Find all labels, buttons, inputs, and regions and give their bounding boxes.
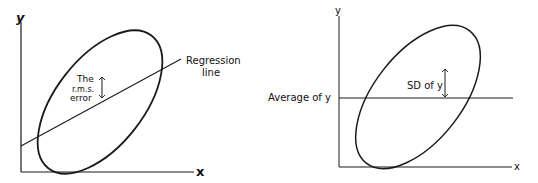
rms-label-1: The xyxy=(76,74,94,84)
right-panel: y x Average of y SD of y xyxy=(268,4,520,183)
left-scatter-ellipse xyxy=(14,9,187,183)
left-x-label: x xyxy=(196,164,205,179)
sd-label: SD of y xyxy=(407,80,443,91)
regression-label-1: Regression xyxy=(186,55,241,66)
diagram-canvas: y x Regression line The r.m.s. error y x… xyxy=(0,0,538,183)
regression-label-2: line xyxy=(202,67,220,78)
regression-line xyxy=(21,59,181,146)
average-label: Average of y xyxy=(268,92,331,103)
left-y-label: y xyxy=(16,10,25,25)
left-panel: y x Regression line The r.m.s. error xyxy=(14,9,241,183)
right-x-label: x xyxy=(514,161,520,172)
right-scatter-ellipse xyxy=(332,4,505,183)
right-y-label: y xyxy=(335,5,341,16)
rms-label-3: error xyxy=(70,93,92,103)
